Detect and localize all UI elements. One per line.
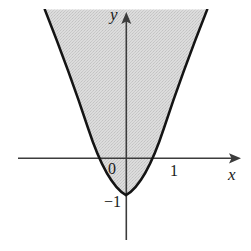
- origin-label: 0: [108, 161, 116, 177]
- y-tick-label-minus-1: −1: [104, 194, 121, 210]
- x-axis-label: x: [228, 166, 236, 183]
- plot-canvas: [0, 0, 251, 251]
- parabola-figure: y x 0 1 −1: [0, 0, 251, 251]
- x-tick-label-1: 1: [170, 163, 178, 179]
- y-axis-label: y: [110, 6, 118, 23]
